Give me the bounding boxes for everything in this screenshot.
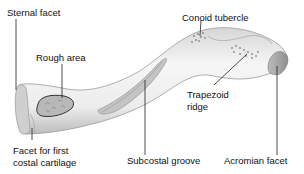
label-trapezoid-ridge-1: Trapezoid — [187, 89, 229, 100]
label-conoid-tubercle: Conoid tubercle — [182, 12, 249, 23]
label-facet-first-costal-1: Facet for first — [13, 145, 68, 156]
label-acromian-facet: Acromian facet — [224, 155, 287, 166]
label-facet-first-costal-2: costal cartilage — [13, 157, 76, 168]
label-subcostal-groove: Subcostal groove — [127, 155, 200, 166]
label-trapezoid-ridge-2: ridge — [187, 101, 208, 112]
label-rough-area: Rough area — [36, 52, 86, 63]
label-sternal-facet: Sternal facet — [7, 7, 60, 18]
